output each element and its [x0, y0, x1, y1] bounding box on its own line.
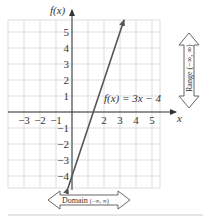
x-tick-label: 2 — [101, 114, 107, 126]
domain-arrow: Domain (−∞, ∞) — [48, 191, 130, 209]
y-tick-label: −4 — [57, 170, 69, 182]
function-line — [68, 20, 124, 188]
x-tick-label: 3 — [117, 114, 123, 126]
range-label: Range (−∞, ∞) — [185, 44, 194, 92]
x-tick-label: −3 — [18, 114, 30, 126]
function-graph: f(x) x −3−2−12345 54321−1−2−3−4 f(x) = 3… — [0, 0, 207, 218]
function-label: f(x) = 3x − 4 — [104, 92, 161, 105]
x-axis-label: x — [176, 112, 182, 124]
y-tick-label: 4 — [64, 42, 70, 54]
y-tick-label: 2 — [64, 74, 70, 86]
x-tick-labels: −3−2−12345 — [18, 114, 155, 126]
domain-label: Domain (−∞, ∞) — [62, 196, 109, 205]
x-tick-label: 4 — [133, 114, 139, 126]
y-tick-labels: 54321−1−2−3−4 — [57, 26, 69, 182]
y-tick-label: −1 — [57, 122, 69, 134]
y-tick-label: 5 — [64, 26, 70, 38]
y-tick-label: 1 — [64, 90, 70, 102]
x-tick-label: 5 — [149, 114, 155, 126]
y-axis-label: f(x) — [50, 4, 66, 17]
x-tick-label: −2 — [34, 114, 46, 126]
range-arrow: Range (−∞, ∞) — [179, 33, 199, 108]
grid — [8, 20, 160, 188]
y-tick-label: 3 — [64, 58, 70, 70]
y-tick-label: −3 — [57, 154, 69, 166]
y-tick-label: −2 — [57, 138, 69, 150]
